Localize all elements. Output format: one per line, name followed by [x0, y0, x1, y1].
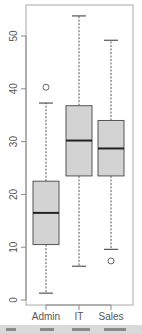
- box-it: [66, 16, 92, 266]
- y-tick-label: 50: [8, 30, 19, 42]
- boxes: [33, 16, 124, 293]
- y-tick-label: 30: [8, 136, 19, 148]
- y-tick-label: 10: [8, 241, 19, 253]
- outlier-point: [43, 84, 49, 90]
- y-axis: 01020304050: [8, 30, 26, 303]
- cut-off-strip: [0, 325, 142, 334]
- x-tick-label: Sales: [98, 311, 123, 320]
- box-sales: [98, 40, 124, 264]
- y-tick-label: 40: [8, 83, 19, 95]
- box-plot: 01020304050 AdminITSales: [0, 0, 142, 320]
- x-tick-label: IT: [75, 311, 84, 320]
- box-admin: [33, 84, 59, 293]
- outlier-point: [108, 258, 114, 264]
- y-tick-label: 0: [8, 297, 19, 303]
- x-tick-label: Admin: [32, 311, 60, 320]
- y-tick-label: 20: [8, 188, 19, 200]
- x-axis: AdminITSales: [32, 305, 124, 320]
